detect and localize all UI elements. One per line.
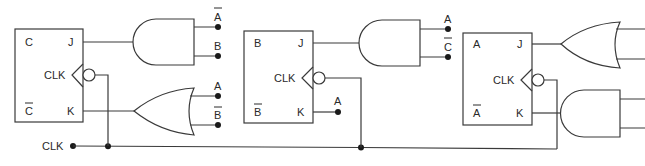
circuit-diagram: CLK C C J K CLK A B A B xyxy=(0,0,645,166)
flip-flop-c-qbar-label: C xyxy=(25,105,33,117)
flip-flop-c: C C J K CLK A B A B xyxy=(15,8,222,146)
input-terminal xyxy=(445,54,451,60)
flip-flop-b-clock-wire xyxy=(325,78,361,148)
flip-flop-c-clk-label: CLK xyxy=(44,69,66,81)
flip-flop-a: A A J K CLK xyxy=(463,22,645,149)
flip-flop-b-qbar-label: B xyxy=(254,106,261,118)
or-gate-icon xyxy=(561,22,620,68)
input-terminal xyxy=(215,93,221,99)
and-gate-icon xyxy=(133,19,194,65)
input-label: A xyxy=(444,13,452,25)
flip-flop-a-k-label: K xyxy=(516,107,524,119)
flip-flop-a-clk-label: CLK xyxy=(493,74,515,86)
inversion-bubble-icon xyxy=(83,69,95,81)
input-terminal xyxy=(215,122,221,128)
and-gate-input-wires xyxy=(620,99,645,128)
flip-flop-b-k-label: K xyxy=(297,106,305,118)
flip-flop-a-qbar-label: A xyxy=(473,107,481,119)
inversion-bubble-icon xyxy=(313,72,325,84)
flip-flop-a-q-label: A xyxy=(473,38,481,50)
inversion-bubble-icon xyxy=(532,74,544,86)
flip-flop-b: B B J K CLK A C A xyxy=(244,13,452,148)
flip-flop-c-j-label: J xyxy=(68,36,74,48)
flip-flop-a-clock-wire xyxy=(544,80,557,149)
flip-flop-b-q-label: B xyxy=(254,37,261,49)
input-label: A xyxy=(334,95,342,107)
input-label: A xyxy=(214,80,222,92)
or-gate-icon xyxy=(134,88,194,135)
clock-bus: CLK xyxy=(42,140,557,152)
input-label: A xyxy=(214,11,222,23)
input-label: B xyxy=(214,40,221,52)
or-gate-input-wires xyxy=(616,29,645,59)
input-terminal xyxy=(335,109,341,115)
and-gate-icon xyxy=(359,20,420,66)
clock-bus-wire xyxy=(73,146,557,149)
input-terminal xyxy=(445,26,451,32)
flip-flop-c-k-label: K xyxy=(67,105,75,117)
clock-input-label: CLK xyxy=(42,140,64,152)
flip-flop-c-q-label: C xyxy=(25,36,33,48)
input-label: B xyxy=(214,109,221,121)
input-label: C xyxy=(444,41,452,53)
and-gate-icon xyxy=(561,90,621,137)
input-terminal xyxy=(215,53,221,59)
flip-flop-b-clk-label: CLK xyxy=(274,72,296,84)
input-terminal xyxy=(215,24,221,30)
flip-flop-b-j-label: J xyxy=(298,37,304,49)
flip-flop-a-j-label: J xyxy=(517,38,523,50)
